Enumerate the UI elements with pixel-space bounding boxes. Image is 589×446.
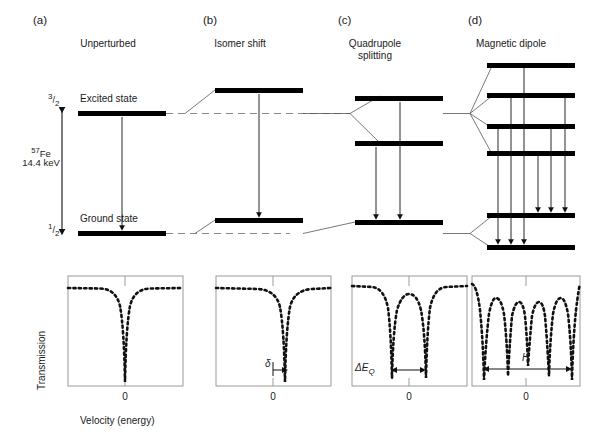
connector-b-ground [195, 220, 215, 234]
connector-c-ground [303, 222, 355, 234]
connector-d-g1 [470, 216, 492, 234]
levels-panel-a [78, 111, 166, 236]
connector-d-e4 [470, 114, 492, 155]
excited-level-b [215, 88, 303, 93]
excited-level-d-4 [487, 151, 575, 156]
mossbauer-figure: (a) (b) (c) (d) Unperturbed Isomer shift… [0, 0, 589, 446]
excited-level-c-lower [355, 141, 443, 146]
zero-label-a: 0 [115, 391, 135, 402]
levels-panel-b [185, 88, 303, 234]
excited-level-d-3 [487, 124, 575, 129]
ground-level-c [355, 220, 443, 225]
excited-level-c-upper [355, 96, 443, 101]
ground-level-a [78, 231, 166, 236]
spectrum-curves [68, 284, 580, 382]
y-axis-label: Transmission [36, 331, 47, 390]
levels-panel-d [443, 63, 575, 250]
excited-level-a [78, 111, 166, 116]
spectrum-curve-a [68, 288, 183, 382]
connector-d-e1 [470, 66, 492, 114]
excited-level-d-1 [487, 63, 575, 68]
zero-label-c: 0 [399, 391, 419, 402]
x-axis-label: Velocity (energy) [80, 415, 154, 426]
connector-b-excited [185, 90, 215, 114]
levels-panel-c [303, 96, 443, 234]
quadrupole-symbol: ΔE [355, 362, 368, 373]
spectra-annotation-arrows [273, 362, 570, 376]
connector-c-excited-lower [350, 114, 380, 144]
excited-level-d-2 [487, 93, 575, 98]
ground-level-b [215, 218, 303, 223]
energy-level-diagram [0, 0, 589, 270]
spectrum-curve-d [472, 284, 580, 380]
connector-d-e2 [470, 96, 492, 114]
isomer-shift-label: δ [265, 358, 271, 369]
ground-level-d-1 [487, 213, 575, 218]
zero-label-b: 0 [263, 391, 283, 402]
quadrupole-subscript: Q [368, 367, 374, 376]
magnetic-field-label: H [522, 352, 529, 363]
quadrupole-splitting-label: ΔEQ [355, 362, 375, 376]
zero-label-d: 0 [516, 391, 536, 402]
ground-level-d-2 [487, 245, 575, 250]
